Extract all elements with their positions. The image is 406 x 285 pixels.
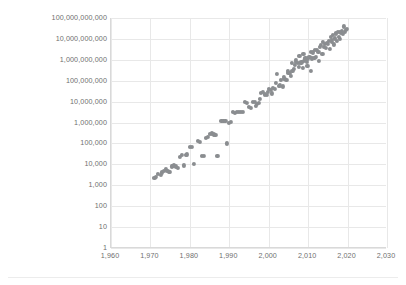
scatter-chart: 1101001,00010,000100,0001,000,00010,000,…	[0, 0, 406, 285]
gridline-y-1	[111, 227, 386, 228]
data-point	[185, 152, 189, 156]
data-point	[182, 163, 186, 167]
data-point	[202, 154, 206, 158]
gridline-x-6	[348, 18, 349, 248]
bottom-divider	[8, 277, 398, 278]
y-tick-label-3: 1,000	[3, 182, 107, 189]
data-point	[270, 91, 274, 95]
data-point	[332, 42, 336, 46]
y-tick-label-9: 1,000,000,000	[3, 56, 107, 63]
data-point	[176, 166, 180, 170]
data-point	[301, 66, 305, 70]
gridline-y-9	[111, 60, 386, 61]
y-axis-tick-labels: 1101001,00010,000100,0001,000,00010,000,…	[0, 18, 107, 248]
data-point	[275, 71, 279, 75]
data-point	[254, 104, 258, 108]
data-point	[291, 67, 295, 71]
gridline-y-0	[111, 248, 386, 249]
gridline-y-6	[111, 123, 386, 124]
data-point	[309, 69, 313, 73]
data-point	[249, 106, 253, 110]
y-tick-label-10: 10,000,000,000	[3, 35, 107, 42]
gridline-x-3	[229, 18, 230, 248]
gridline-x-7	[387, 18, 388, 248]
y-tick-label-0: 1	[3, 244, 107, 251]
y-tick-label-5: 100,000	[3, 140, 107, 147]
gridline-x-0	[111, 18, 112, 248]
data-point	[317, 59, 321, 63]
gridline-y-8	[111, 81, 386, 82]
y-tick-label-2: 100	[3, 203, 107, 210]
data-point	[215, 154, 219, 158]
gridline-y-5	[111, 143, 386, 144]
data-point	[213, 133, 217, 137]
y-tick-label-4: 10,000	[3, 161, 107, 168]
gridline-x-4	[269, 18, 270, 248]
plot-area	[110, 18, 386, 248]
x-tick-label-7: 2,030	[356, 252, 406, 259]
gridline-y-4	[111, 164, 386, 165]
y-tick-label-6: 1,000,000	[3, 119, 107, 126]
data-point	[289, 74, 293, 78]
data-point	[301, 51, 305, 55]
gridline-x-2	[190, 18, 191, 248]
gridline-y-11	[111, 18, 386, 19]
data-point	[168, 170, 172, 174]
data-point	[178, 155, 182, 159]
data-point	[162, 169, 166, 173]
y-tick-label-7: 10,000,000	[3, 98, 107, 105]
data-point	[328, 47, 332, 51]
data-point	[320, 52, 324, 56]
y-tick-label-8: 100,000,000	[3, 77, 107, 84]
x-axis-line	[111, 247, 386, 248]
gridline-x-1	[150, 18, 151, 248]
gridline-y-3	[111, 185, 386, 186]
gridline-y-10	[111, 39, 386, 40]
y-tick-label-1: 10	[3, 223, 107, 230]
y-tick-label-11: 100,000,000,000	[3, 14, 107, 21]
data-point	[190, 145, 194, 149]
gridline-y-2	[111, 206, 386, 207]
x-axis-tick-labels: 1,9601,9701,9801,9902,0002,0102,0202,030	[0, 252, 406, 266]
data-point	[241, 110, 245, 114]
